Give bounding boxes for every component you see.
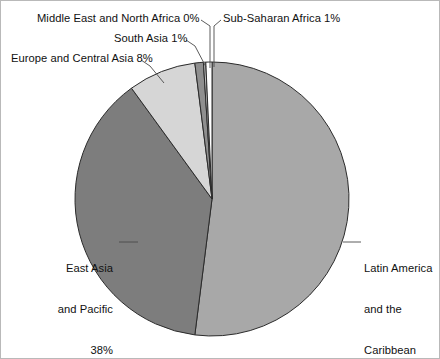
- pie-label-latin-america-line2: and the: [364, 303, 439, 317]
- pie-label-east-asia-and-pacific-line1: East Asia: [9, 262, 113, 276]
- leader-line-sub-saharan-africa: [214, 20, 221, 67]
- pie-label-latin-america-line1: Latin America: [364, 262, 439, 276]
- pie-label-east-asia-and-pacific-value: 38%: [9, 344, 113, 358]
- pie-label-europe-and-central-asia: Europe and Central Asia 8%: [11, 52, 153, 66]
- pie-label-east-asia-and-pacific-line2: and Pacific: [9, 303, 113, 317]
- pie-slices: [75, 62, 349, 336]
- pie-label-sub-saharan-africa: Sub-Saharan Africa 1%: [223, 12, 340, 26]
- pie-label-latin-america-and-the-caribbean: Latin America and the Caribbean 52%: [364, 235, 439, 359]
- pie-chart-figure: Middle East and North Africa 0% Sub-Saha…: [0, 0, 440, 359]
- pie-label-middle-east-and-north-africa: Middle East and North Africa 0%: [37, 12, 200, 26]
- pie-label-south-asia: South Asia 1%: [114, 32, 187, 46]
- pie-slice-latin-america-and-the-caribbean[interactable]: [195, 62, 349, 336]
- pie-label-latin-america-line3: Caribbean: [364, 344, 439, 358]
- pie-label-east-asia-and-pacific: East Asia and Pacific 38%: [9, 235, 113, 359]
